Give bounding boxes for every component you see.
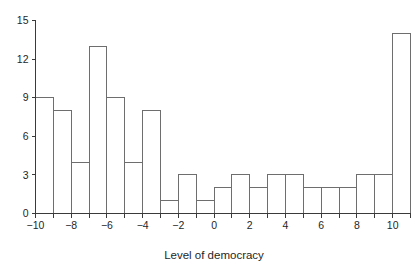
histogram-bar <box>303 188 321 214</box>
y-axis-tick-label: 12 <box>17 53 29 65</box>
x-axis-tick-label: 8 <box>354 219 360 231</box>
x-axis: −10−8−6−4−20246810 <box>27 214 411 231</box>
histogram-bar <box>375 175 393 214</box>
histogram-bar <box>339 188 357 214</box>
histogram-bar <box>178 175 196 214</box>
histogram-bar <box>125 162 143 213</box>
histogram-bar <box>268 175 286 214</box>
histogram-bar <box>143 111 161 214</box>
x-axis-tick-label: −10 <box>27 219 45 231</box>
histogram-bar <box>286 175 304 214</box>
bars-group <box>36 33 411 213</box>
y-axis-tick-label: 15 <box>17 14 29 26</box>
histogram-bar <box>232 175 250 214</box>
x-axis-tick-label: −6 <box>101 219 113 231</box>
x-axis-tick-label: −2 <box>172 219 184 231</box>
x-axis-tick-label: −4 <box>137 219 149 231</box>
histogram-bar <box>393 33 411 213</box>
y-axis-tick-label: 3 <box>23 169 29 181</box>
y-axis-tick-label: 0 <box>23 207 29 219</box>
x-axis-tick-label: 6 <box>318 219 324 231</box>
histogram-bar <box>71 162 89 213</box>
histogram-bar <box>161 201 179 214</box>
histogram-bar <box>53 111 71 214</box>
histogram-bar <box>321 188 339 214</box>
histogram-bar <box>196 201 214 214</box>
histogram-bar <box>357 175 375 214</box>
histogram-plot: 03691215 −10−8−6−4−20246810 Level of dem… <box>0 0 419 270</box>
x-axis-tick-label: 0 <box>211 219 217 231</box>
x-axis-tick-label: 2 <box>247 219 253 231</box>
x-axis-tick-label: 10 <box>387 219 399 231</box>
histogram-figure: 03691215 −10−8−6−4−20246810 Level of dem… <box>0 0 419 270</box>
x-axis-tick-label: 4 <box>283 219 289 231</box>
histogram-bar <box>214 188 232 214</box>
y-axis-tick-label: 6 <box>23 130 29 142</box>
histogram-bar <box>250 188 268 214</box>
x-axis-title: Level of democracy <box>164 249 264 261</box>
histogram-bar <box>89 46 107 213</box>
histogram-bar <box>107 98 125 214</box>
y-axis: 03691215 <box>17 14 36 219</box>
y-axis-tick-label: 9 <box>23 91 29 103</box>
histogram-bar <box>36 98 54 214</box>
x-axis-tick-label: −8 <box>65 219 77 231</box>
